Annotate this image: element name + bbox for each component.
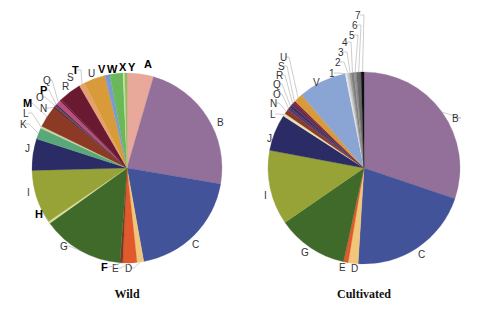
cultivated-leader-line-7 — [360, 15, 364, 72]
cultivated-pie-chart: BCDEGIJLNOQRSUV1234567 — [264, 10, 461, 274]
cultivated-leader-line-U — [285, 57, 298, 98]
wild-label-D: D — [125, 263, 132, 274]
wild-label-C: C — [192, 239, 199, 250]
cultivated-leader-line-S — [283, 66, 295, 102]
cultivated-label-J: J — [267, 133, 272, 144]
wild-label-Q: Q — [43, 75, 51, 86]
wild-label-G: G — [60, 241, 68, 252]
wild-label-J: J — [25, 143, 30, 154]
cultivated-label-1: 1 — [329, 68, 335, 79]
wild-label-H: H — [35, 208, 43, 220]
cultivated-leader-line-5 — [354, 35, 358, 72]
wild-label-L: L — [23, 108, 29, 119]
cultivated-leader-line-6 — [357, 25, 361, 72]
cultivated-leader-line-1 — [334, 73, 346, 74]
wild-label-M: M — [23, 97, 32, 109]
cultivated-label-G: G — [301, 247, 309, 258]
cultivated-label-6: 6 — [352, 20, 358, 31]
wild-label-T: T — [72, 64, 79, 76]
pie-charts-figure: ABCDEFGHIJKLMNOPQRSTUVWXY BCDEGIJLNOQRSU… — [0, 0, 478, 312]
cultivated-label-U: U — [280, 52, 287, 63]
wild-label-I: I — [27, 187, 30, 198]
cultivated-label-5: 5 — [349, 30, 355, 41]
cultivated-label-V: V — [313, 77, 320, 88]
cultivated-label-2: 2 — [335, 57, 341, 68]
wild-label-N: N — [40, 103, 47, 114]
wild-label-U: U — [88, 68, 95, 79]
wild-leader-line-K — [25, 124, 39, 134]
cultivated-label-L: L — [270, 109, 276, 120]
cultivated-label-7: 7 — [355, 10, 361, 21]
wild-label-F: F — [101, 261, 108, 273]
wild-label-W: W — [107, 63, 118, 75]
cultivated-label-E: E — [339, 262, 346, 273]
cultivated-label-D: D — [351, 263, 358, 274]
wild-label-B: B — [217, 117, 224, 128]
wild-pie-chart: ABCDEFGHIJKLMNOPQRSTUVWXY — [20, 58, 224, 274]
cultivated-label-O: O — [273, 89, 281, 100]
wild-label-A: A — [144, 58, 152, 70]
cultivated-label-B: B — [452, 113, 459, 124]
wild-label-X: X — [119, 61, 127, 73]
cultivated-leader-line-L — [275, 114, 284, 115]
cultivated-label-C: C — [418, 249, 425, 260]
wild-chart-caption: Wild — [87, 287, 167, 302]
cultivated-leader-line-2 — [340, 62, 348, 73]
wild-label-Y: Y — [128, 61, 136, 73]
wild-label-K: K — [20, 119, 27, 130]
wild-label-V: V — [98, 63, 106, 75]
cultivated-label-I: I — [264, 190, 267, 201]
cultivated-label-4: 4 — [342, 37, 348, 48]
cultivated-chart-caption: Cultivated — [324, 287, 404, 302]
cultivated-label-3: 3 — [338, 47, 344, 58]
